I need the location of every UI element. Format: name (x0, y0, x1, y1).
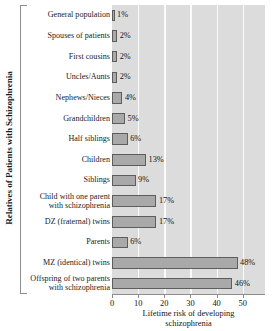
category-label-line: MZ (identical) twins (24, 258, 110, 267)
category-label-line: Spouses of patients (24, 31, 110, 40)
category-label-line: Offspring of two parents (24, 274, 110, 283)
category-label-line: with schizophrenia (24, 283, 110, 292)
bar-value-label: 4% (125, 93, 136, 102)
bar (112, 30, 117, 42)
bar (112, 72, 117, 84)
x-axis-tick-label: 20 (160, 299, 168, 308)
plot-area (112, 5, 265, 294)
bar-value-label: 5% (128, 114, 139, 123)
bar-value-label: 6% (130, 237, 141, 246)
x-axis-tick-label: 0 (110, 299, 114, 308)
category-label-line: Child with one parent (24, 192, 110, 201)
x-axis-tick (112, 294, 113, 298)
category-label-line: Half siblings (24, 134, 110, 143)
bar-value-label: 13% (149, 155, 164, 164)
bar (112, 113, 125, 125)
category-label: MZ (identical) twins (24, 258, 110, 267)
bar-value-label: 2% (120, 52, 131, 61)
bar (112, 51, 117, 63)
bar (112, 216, 156, 228)
y-axis-title: Relatives of Patients with Schizophrenia (0, 0, 18, 296)
category-label-line: DZ (fraternal) twins (24, 217, 110, 226)
category-label: General population (24, 10, 110, 19)
bar (112, 257, 238, 269)
category-label: Parents (24, 237, 110, 246)
bar-value-label: 48% (240, 258, 255, 267)
chart-container: Relatives of Patients with Schizophrenia… (0, 0, 272, 331)
category-label: Spouses of patients (24, 31, 110, 40)
bar-value-label: 46% (235, 279, 250, 288)
category-label-line: Parents (24, 237, 110, 246)
y-axis-title-text: Relatives of Patients with Schizophrenia (4, 71, 14, 225)
category-label-line: Siblings (24, 175, 110, 184)
category-label-line: Nephews/Nieces (24, 93, 110, 102)
bar (112, 175, 136, 187)
category-bracket (20, 5, 27, 294)
bar-value-label: 6% (130, 134, 141, 143)
bar-value-label: 9% (138, 175, 149, 184)
category-label-line: Grandchildren (24, 114, 110, 123)
category-label: First cousins (24, 52, 110, 61)
x-axis-tick (138, 294, 139, 298)
bar-value-label: 17% (159, 217, 174, 226)
x-axis-title: Lifetime risk of developing schizophreni… (112, 309, 265, 329)
x-axis-tick (164, 294, 165, 298)
bar-value-label: 17% (159, 196, 174, 205)
category-label: Uncles/Aunts (24, 72, 110, 81)
category-label: Half siblings (24, 134, 110, 143)
category-label: Children (24, 155, 110, 164)
bar (112, 10, 115, 22)
bar (112, 237, 128, 249)
x-axis-tick (190, 294, 191, 298)
gridline-50 (243, 5, 244, 294)
category-label-line: General population (24, 10, 110, 19)
category-label: Siblings (24, 175, 110, 184)
bar-value-label: 2% (120, 31, 131, 40)
gridline-20 (164, 5, 165, 294)
category-label: Offspring of two parentswith schizophren… (24, 274, 110, 293)
category-label-line: with schizophrenia (24, 201, 110, 210)
bar (112, 278, 232, 290)
x-axis-tick-label: 10 (134, 299, 142, 308)
bar (112, 92, 122, 104)
gridline-30 (190, 5, 191, 294)
category-label: DZ (fraternal) twins (24, 217, 110, 226)
x-axis-title-line1: Lifetime risk of developing (112, 309, 265, 319)
x-axis-tick (217, 294, 218, 298)
category-label-line: Uncles/Aunts (24, 72, 110, 81)
x-axis-tick (243, 294, 244, 298)
category-label: Nephews/Nieces (24, 93, 110, 102)
x-axis-tick-label: 40 (212, 299, 220, 308)
bar (112, 154, 146, 166)
bar-value-label: 2% (120, 72, 131, 81)
gridline-40 (217, 5, 218, 294)
category-label-line: Children (24, 155, 110, 164)
bar (112, 133, 128, 145)
category-label: Grandchildren (24, 114, 110, 123)
bar-value-label: 1% (117, 10, 128, 19)
category-label: Child with one parentwith schizophrenia (24, 192, 110, 211)
x-axis-tick-label: 50 (239, 299, 247, 308)
x-axis-tick-label: 30 (186, 299, 194, 308)
gridline-10 (138, 5, 139, 294)
category-label-line: First cousins (24, 52, 110, 61)
bar (112, 195, 156, 207)
x-axis-title-line2: schizophrenia (112, 319, 265, 329)
